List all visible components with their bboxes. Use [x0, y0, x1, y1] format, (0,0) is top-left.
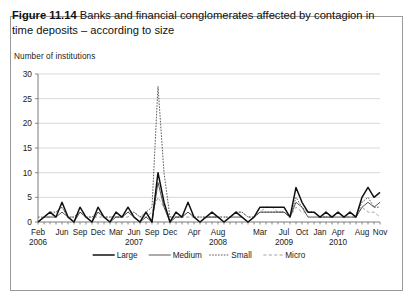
line-chart: 051015202530 FebJunSepDecMarJunSepDecApr… — [0, 0, 393, 275]
x-tick-label: Mar — [109, 228, 123, 237]
legend-label-small: Small — [231, 251, 252, 260]
tickmarks-group — [35, 74, 380, 225]
year-labels-group: 20062007200820092010 — [29, 238, 348, 247]
y-tick-labels-group: 051015202530 — [23, 69, 33, 227]
y-tick-label: 15 — [23, 143, 33, 153]
series-line-medium — [38, 183, 380, 222]
y-tick-label: 10 — [23, 168, 33, 178]
y-tick-label: 25 — [23, 94, 33, 104]
x-tick-label: Oct — [296, 228, 309, 237]
x-tick-label: Jun — [55, 228, 69, 237]
x-tick-label: Nov — [373, 228, 388, 237]
x-tick-label: Apr — [332, 228, 345, 237]
x-tick-label: Aug — [355, 228, 370, 237]
x-year-label: 2010 — [329, 238, 348, 247]
x-tick-label: Jun — [127, 228, 141, 237]
x-tick-label: Mar — [253, 228, 267, 237]
y-tick-label: 0 — [27, 217, 32, 227]
x-tick-label: Aug — [211, 228, 226, 237]
x-tick-label: Jul — [279, 228, 290, 237]
series-group — [38, 86, 380, 222]
gridlines-group — [38, 74, 380, 222]
x-tick-label: Sep — [73, 228, 88, 237]
y-tick-label: 20 — [23, 118, 33, 128]
legend-label-large: Large — [117, 251, 138, 260]
y-tick-label: 30 — [23, 69, 33, 79]
chart-legend: LargeMediumSmallMicro — [93, 251, 306, 260]
x-tick-label: Dec — [163, 228, 178, 237]
x-year-label: 2006 — [29, 238, 48, 247]
x-tick-label: Dec — [91, 228, 106, 237]
legend-label-micro: Micro — [285, 251, 305, 260]
x-year-label: 2007 — [125, 238, 144, 247]
x-tick-label: Feb — [31, 228, 46, 237]
x-tick-labels-group: FebJunSepDecMarJunSepDecAprAugMarJulOctJ… — [31, 228, 388, 237]
x-tick-label: Sep — [145, 228, 160, 237]
x-tick-label: Apr — [188, 228, 201, 237]
series-line-micro — [38, 197, 380, 222]
legend-label-medium: Medium — [173, 251, 202, 260]
x-year-label: 2009 — [275, 238, 294, 247]
x-tick-label: Jan — [313, 228, 327, 237]
x-year-label: 2008 — [209, 238, 228, 247]
chart-plot-area: 051015202530 FebJunSepDecMarJunSepDecApr… — [0, 0, 393, 275]
y-tick-label: 5 — [27, 192, 32, 202]
